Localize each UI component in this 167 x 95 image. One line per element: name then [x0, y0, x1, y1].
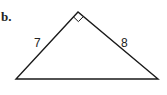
diagram-canvas: b. 7 8	[0, 0, 167, 95]
right-triangle-figure: 7 8	[0, 0, 167, 95]
right-angle-marker-icon	[74, 17, 84, 22]
side-label-left: 7	[34, 36, 41, 50]
side-label-right: 8	[121, 36, 128, 50]
